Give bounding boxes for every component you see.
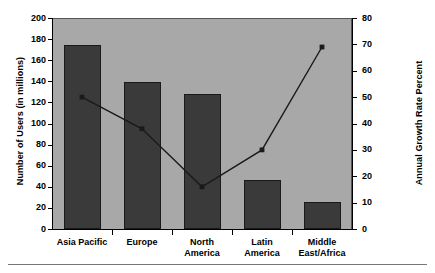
y-axis-left-tick-mark bbox=[48, 166, 52, 167]
y-axis-right-tick-label: 80 bbox=[362, 14, 394, 23]
growth-rate-markers bbox=[80, 45, 325, 190]
y-axis-left-tick-mark bbox=[48, 81, 52, 82]
x-axis-line bbox=[52, 229, 353, 230]
y-axis-left-tick-mark bbox=[48, 18, 52, 19]
x-axis-tick-mark bbox=[292, 230, 293, 235]
y-axis-left-tick-label: 60 bbox=[14, 161, 46, 170]
y-axis-left-tick-label: 0 bbox=[14, 225, 46, 234]
y-axis-left-tick-label: 120 bbox=[14, 98, 46, 107]
y-axis-right-title: Annual Growth Rate Percent bbox=[414, 38, 424, 208]
y-axis-right-tick-mark bbox=[353, 229, 357, 230]
y-axis-left-tick-mark bbox=[48, 208, 52, 209]
y-axis-right-tick-label: 40 bbox=[362, 119, 394, 128]
y-axis-right-tick-mark bbox=[353, 150, 357, 151]
combo-bar-line-chart: Number of Users (in millions) Annual Gro… bbox=[0, 0, 435, 273]
footer-rule bbox=[8, 264, 427, 265]
y-axis-left-tick-mark bbox=[48, 229, 52, 230]
y-axis-right-tick-label: 50 bbox=[362, 93, 394, 102]
x-axis-tick-mark bbox=[232, 230, 233, 235]
growth-rate-line-series bbox=[52, 18, 352, 229]
x-axis-category-label: MiddleEast/Africa bbox=[283, 237, 361, 259]
y-axis-right-tick-mark bbox=[353, 97, 357, 98]
y-axis-left-tick-label: 180 bbox=[14, 35, 46, 44]
y-axis-left-tick-mark bbox=[48, 102, 52, 103]
y-axis-left-tick-mark bbox=[48, 39, 52, 40]
y-axis-left-tick-mark bbox=[48, 60, 52, 61]
y-axis-right-tick-mark bbox=[353, 203, 357, 204]
y-axis-right-tick-mark bbox=[353, 44, 357, 45]
y-axis-right-tick-label: 0 bbox=[362, 225, 394, 234]
y-axis-right-tick-label: 60 bbox=[362, 66, 394, 75]
y-axis-right-tick-label: 70 bbox=[362, 40, 394, 49]
y-axis-left-tick-label: 40 bbox=[14, 182, 46, 191]
x-axis-tick-mark bbox=[112, 230, 113, 235]
growth-rate-line bbox=[82, 47, 322, 187]
y-axis-right-tick-mark bbox=[353, 124, 357, 125]
y-axis-left-tick-label: 100 bbox=[14, 119, 46, 128]
y-axis-left-tick-label: 140 bbox=[14, 77, 46, 86]
y-axis-right-tick-mark bbox=[353, 18, 357, 19]
y-axis-left-tick-label: 20 bbox=[14, 203, 46, 212]
y-axis-left-tick-label: 80 bbox=[14, 140, 46, 149]
y-axis-left-tick-label: 200 bbox=[14, 14, 46, 23]
data-point-marker bbox=[320, 45, 325, 50]
data-point-marker bbox=[260, 147, 265, 152]
y-axis-left-tick-label: 160 bbox=[14, 56, 46, 65]
data-point-marker bbox=[200, 184, 205, 189]
y-axis-right-tick-label: 10 bbox=[362, 198, 394, 207]
y-axis-left-tick-mark bbox=[48, 187, 52, 188]
y-axis-right-tick-label: 20 bbox=[362, 172, 394, 181]
data-point-marker bbox=[80, 95, 85, 100]
y-axis-left-line bbox=[52, 18, 53, 230]
y-axis-right-tick-mark bbox=[353, 176, 357, 177]
y-axis-left-tick-mark bbox=[48, 124, 52, 125]
data-point-marker bbox=[140, 126, 145, 131]
y-axis-left-tick-mark bbox=[48, 145, 52, 146]
y-axis-right-tick-label: 30 bbox=[362, 145, 394, 154]
x-axis-tick-mark bbox=[172, 230, 173, 235]
y-axis-right-tick-mark bbox=[353, 71, 357, 72]
